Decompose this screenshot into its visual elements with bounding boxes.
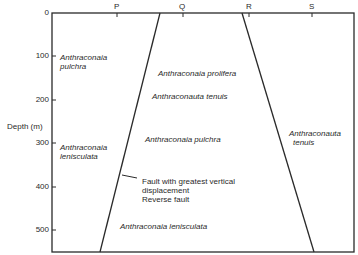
y-tick-200: 200 bbox=[19, 96, 49, 104]
left-upper-species-line2: pulchra bbox=[60, 62, 86, 71]
middle-species-lenisculata: Anthraconaia lenisculata bbox=[120, 222, 207, 231]
y-tick-400: 400 bbox=[19, 183, 49, 191]
right-species-line2: tenuis bbox=[293, 138, 314, 147]
left-lower-species-line2: lenisculata bbox=[60, 152, 98, 161]
marker-r: R bbox=[246, 3, 252, 11]
middle-species-tenuis: Anthraconauta tenuis bbox=[152, 92, 228, 101]
y-tick-300: 300 bbox=[19, 139, 49, 147]
middle-species-pulchra: Anthraconaia pulchra bbox=[145, 135, 221, 144]
left-upper-species-line1: Anthraconaia bbox=[60, 53, 107, 62]
marker-q: Q bbox=[179, 3, 185, 11]
left-lower-species-line1: Anthraconaia bbox=[60, 143, 107, 152]
marker-p: P bbox=[114, 3, 119, 11]
fault-note-line3: Reverse fault bbox=[142, 195, 189, 204]
y-tick-100: 100 bbox=[19, 52, 49, 60]
fault-note-leader bbox=[122, 175, 137, 178]
fault-note-line2: displacement bbox=[142, 186, 189, 195]
marker-s: S bbox=[309, 3, 314, 11]
left-fault-line bbox=[100, 13, 160, 252]
y-tick-500: 500 bbox=[19, 226, 49, 234]
middle-species-prolifera: Anthraconaia prolifera bbox=[158, 69, 236, 78]
cross-section-diagram bbox=[0, 0, 358, 255]
y-axis-label: Depth (m) bbox=[7, 122, 43, 131]
right-species-line1: Anthraconauta bbox=[289, 129, 341, 138]
fault-note-line1: Fault with greatest vertical bbox=[142, 177, 235, 186]
y-tick-0: 0 bbox=[19, 9, 49, 17]
